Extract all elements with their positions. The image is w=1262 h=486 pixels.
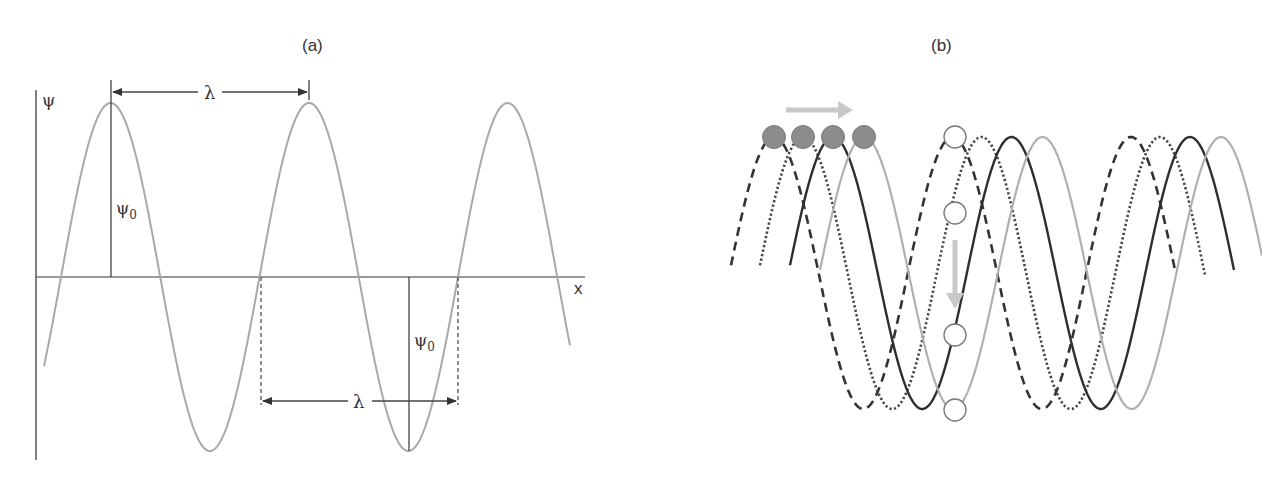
open-circle-marker — [944, 399, 966, 421]
panel-a: ψ x ψ0 λ ψ0 λ — [36, 80, 585, 460]
open-circle-marker — [944, 202, 966, 224]
solid-light-wave — [820, 137, 1262, 409]
panel-b — [731, 101, 1262, 421]
filled-circle-marker — [792, 126, 815, 149]
wavelength-label-top: λ — [204, 82, 215, 103]
wave-diagram: ψ x ψ0 λ ψ0 λ — [0, 0, 1262, 486]
wave-crest-markers — [763, 126, 876, 149]
dotted-wave — [760, 137, 1205, 409]
x-axis-label: x — [574, 279, 583, 298]
filled-circle-marker — [763, 126, 786, 149]
traveling-waves — [731, 137, 1262, 409]
propagation-arrow-icon — [786, 101, 853, 119]
filled-circle-marker — [853, 126, 876, 149]
y-axis-label: ψ — [42, 90, 55, 110]
amplitude-label-bottom: ψ0 — [414, 330, 435, 354]
filled-circle-marker — [822, 126, 845, 149]
wavelength-label-bottom: λ — [353, 391, 364, 412]
open-circle-marker — [944, 126, 966, 148]
amplitude-label-top: ψ0 — [116, 198, 137, 222]
solid-dark-wave — [790, 137, 1234, 409]
open-circle-marker — [944, 324, 966, 346]
